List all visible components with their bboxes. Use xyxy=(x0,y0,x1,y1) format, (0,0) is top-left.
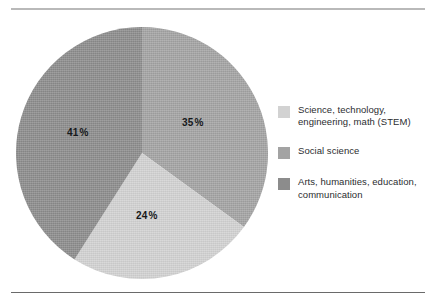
legend-swatch-arts-humanities xyxy=(278,178,290,190)
top-divider-rule xyxy=(11,8,425,10)
bottom-divider-rule xyxy=(11,292,425,293)
legend-item-arts-humanities[interactable]: Arts, humanities, education,communicatio… xyxy=(278,176,430,200)
pie-chart-graphic xyxy=(16,27,268,279)
legend-label-stem: Science, technology,engineering, math (S… xyxy=(298,104,411,128)
legend-item-stem[interactable]: Science, technology,engineering, math (S… xyxy=(278,104,430,128)
legend-swatch-social-science xyxy=(278,147,290,159)
legend-swatch-stem xyxy=(278,106,290,118)
legend-label-arts-humanities-line2: communication xyxy=(298,189,363,200)
legend-label-arts-humanities-line1: Arts, humanities, education, xyxy=(298,176,417,187)
slice-label-stem: 35% xyxy=(182,117,204,128)
slice-label-social-science: 24% xyxy=(136,210,158,221)
pie-chart-figure: 35% 24% 41% Science, technology,engineer… xyxy=(0,0,438,303)
legend-label-stem-line1: Science, technology, xyxy=(298,104,386,115)
legend-label-arts-humanities: Arts, humanities, education,communicatio… xyxy=(298,176,417,200)
slice-label-social-science-value: 24 xyxy=(136,210,148,221)
slice-label-arts-humanities-value: 41 xyxy=(67,127,79,138)
legend-label-stem-line2: engineering, math (STEM) xyxy=(298,116,411,127)
slice-label-social-science-unit: % xyxy=(149,210,158,221)
legend-label-social-science-line1: Social science xyxy=(298,145,359,156)
slice-label-arts-humanities-unit: % xyxy=(80,127,89,138)
pie-svg xyxy=(16,27,268,279)
slice-label-stem-unit: % xyxy=(195,117,204,128)
legend-label-social-science: Social science xyxy=(298,145,359,157)
legend-item-social-science[interactable]: Social science xyxy=(278,145,430,159)
slice-label-stem-value: 35 xyxy=(182,117,194,128)
slice-label-arts-humanities: 41% xyxy=(67,127,89,138)
legend: Science, technology,engineering, math (S… xyxy=(278,104,430,201)
